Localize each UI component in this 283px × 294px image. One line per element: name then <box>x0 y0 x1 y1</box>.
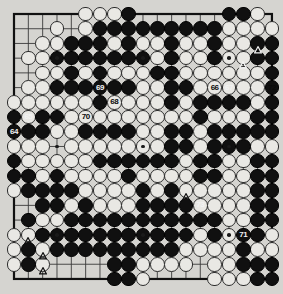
black-stone[interactable] <box>207 228 222 243</box>
black-stone[interactable] <box>164 198 179 213</box>
white-stone[interactable] <box>222 198 237 213</box>
black-stone[interactable] <box>78 228 93 243</box>
white-stone[interactable] <box>207 183 222 198</box>
white-stone[interactable] <box>150 183 165 198</box>
black-stone[interactable] <box>93 21 108 36</box>
white-stone[interactable] <box>250 139 265 154</box>
black-stone[interactable] <box>107 213 122 228</box>
white-stone[interactable] <box>21 95 36 110</box>
black-stone[interactable] <box>107 51 122 66</box>
black-stone[interactable] <box>164 124 179 139</box>
white-stone[interactable] <box>136 80 151 95</box>
black-stone[interactable] <box>150 242 165 257</box>
white-stone[interactable] <box>265 139 280 154</box>
black-stone[interactable] <box>78 36 93 51</box>
black-stone[interactable] <box>164 213 179 228</box>
black-stone[interactable] <box>121 242 136 257</box>
black-stone[interactable] <box>136 242 151 257</box>
white-stone[interactable] <box>21 154 36 169</box>
white-stone[interactable] <box>222 242 237 257</box>
black-stone[interactable] <box>64 183 79 198</box>
black-stone[interactable] <box>150 154 165 169</box>
white-stone[interactable] <box>222 183 237 198</box>
black-stone[interactable] <box>236 139 251 154</box>
black-stone[interactable] <box>64 80 79 95</box>
black-stone[interactable] <box>107 242 122 257</box>
black-stone[interactable] <box>164 80 179 95</box>
black-stone[interactable] <box>21 124 36 139</box>
white-stone[interactable] <box>250 66 265 81</box>
white-stone[interactable] <box>236 213 251 228</box>
white-stone[interactable] <box>107 139 122 154</box>
white-stone[interactable] <box>265 21 280 36</box>
black-stone[interactable] <box>250 198 265 213</box>
white-stone[interactable] <box>64 95 79 110</box>
white-stone[interactable] <box>78 139 93 154</box>
white-stone[interactable] <box>150 51 165 66</box>
white-stone[interactable] <box>207 110 222 125</box>
black-stone[interactable] <box>35 228 50 243</box>
white-stone[interactable] <box>207 257 222 272</box>
black-stone[interactable] <box>193 213 208 228</box>
black-stone[interactable] <box>64 51 79 66</box>
white-stone[interactable] <box>121 183 136 198</box>
white-stone[interactable] <box>64 198 79 213</box>
white-stone[interactable] <box>35 66 50 81</box>
white-stone[interactable] <box>236 21 251 36</box>
white-stone[interactable] <box>193 242 208 257</box>
white-stone[interactable] <box>7 242 22 257</box>
white-stone[interactable] <box>150 95 165 110</box>
black-stone[interactable] <box>265 124 280 139</box>
white-stone[interactable] <box>35 95 50 110</box>
black-stone[interactable] <box>107 124 122 139</box>
white-stone[interactable] <box>236 183 251 198</box>
black-stone[interactable] <box>265 198 280 213</box>
white-stone[interactable] <box>64 139 79 154</box>
white-stone[interactable] <box>193 66 208 81</box>
white-stone[interactable] <box>121 110 136 125</box>
white-stone[interactable] <box>265 242 280 257</box>
white-stone[interactable] <box>21 80 36 95</box>
white-stone[interactable] <box>150 169 165 184</box>
white-stone[interactable] <box>21 51 36 66</box>
black-stone[interactable] <box>35 124 50 139</box>
black-stone[interactable] <box>250 169 265 184</box>
white-stone[interactable] <box>93 183 108 198</box>
black-stone[interactable] <box>265 183 280 198</box>
black-stone[interactable] <box>179 139 194 154</box>
white-stone[interactable] <box>50 95 65 110</box>
black-stone[interactable] <box>250 213 265 228</box>
black-stone[interactable] <box>150 21 165 36</box>
white-stone[interactable] <box>222 36 237 51</box>
black-stone[interactable] <box>107 257 122 272</box>
white-stone[interactable] <box>64 124 79 139</box>
white-stone[interactable] <box>35 139 50 154</box>
black-stone[interactable] <box>207 124 222 139</box>
black-stone[interactable] <box>164 242 179 257</box>
white-stone[interactable] <box>150 80 165 95</box>
black-stone[interactable] <box>121 80 136 95</box>
black-stone[interactable] <box>50 80 65 95</box>
white-stone[interactable] <box>150 124 165 139</box>
black-stone[interactable] <box>164 228 179 243</box>
white-stone[interactable] <box>107 7 122 22</box>
black-stone[interactable] <box>35 198 50 213</box>
black-stone[interactable] <box>121 213 136 228</box>
black-stone[interactable] <box>93 95 108 110</box>
black-stone[interactable] <box>50 198 65 213</box>
black-stone[interactable] <box>236 95 251 110</box>
black-stone[interactable] <box>121 21 136 36</box>
white-stone[interactable] <box>107 169 122 184</box>
black-stone[interactable] <box>265 36 280 51</box>
black-stone[interactable] <box>136 21 151 36</box>
black-stone[interactable] <box>136 198 151 213</box>
white-stone[interactable] <box>150 36 165 51</box>
black-stone[interactable] <box>236 7 251 22</box>
white-stone[interactable] <box>121 95 136 110</box>
black-stone[interactable] <box>121 257 136 272</box>
black-stone[interactable] <box>150 213 165 228</box>
white-stone[interactable] <box>250 21 265 36</box>
white-stone[interactable] <box>236 198 251 213</box>
black-stone[interactable] <box>265 257 280 272</box>
black-stone[interactable] <box>164 66 179 81</box>
